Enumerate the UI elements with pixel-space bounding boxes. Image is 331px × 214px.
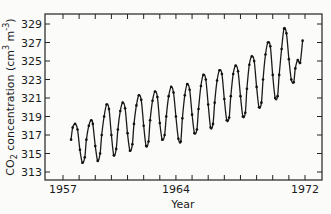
data-point: [191, 113, 194, 116]
data-point: [260, 101, 263, 104]
data-point: [88, 124, 91, 127]
x-tick-label: 1957: [49, 183, 77, 196]
data-point: [83, 156, 86, 159]
data-point: [76, 128, 79, 131]
data-point: [239, 95, 242, 98]
data-point: [218, 69, 221, 72]
data-point: [225, 119, 228, 122]
y-tick-label: 313: [21, 166, 42, 179]
data-point: [147, 140, 150, 143]
data-point: [151, 99, 154, 102]
y-tick-label: 317: [21, 129, 42, 142]
data-point: [135, 104, 138, 107]
data-point: [188, 88, 191, 91]
data-point: [96, 160, 99, 163]
y-tick-label: 321: [21, 92, 42, 105]
y-tick-label: 329: [21, 18, 42, 31]
data-point: [154, 90, 157, 93]
data-point: [232, 73, 235, 76]
data-point: [267, 41, 270, 44]
data-point: [184, 94, 187, 97]
y-axis-title: CO2 concentration (cm3 m-3): [2, 18, 19, 175]
data-point: [212, 123, 215, 126]
data-point: [269, 45, 272, 48]
data-point: [262, 78, 265, 81]
data-point: [253, 60, 256, 63]
data-point: [290, 78, 293, 81]
data-point: [193, 132, 196, 135]
data-point: [285, 32, 288, 35]
data-point: [175, 115, 178, 118]
data-point: [170, 86, 173, 89]
data-point: [149, 119, 152, 122]
data-point: [186, 83, 189, 86]
data-point: [115, 148, 118, 151]
data-point: [138, 94, 141, 97]
data-point: [288, 58, 291, 61]
x-axis-title: Year: [170, 198, 195, 211]
data-point: [258, 106, 261, 109]
data-point: [81, 161, 84, 164]
data-point: [234, 64, 237, 67]
data-point: [119, 110, 122, 113]
co2-series: [70, 27, 304, 164]
co2-curve: [71, 28, 303, 164]
data-point: [202, 74, 205, 77]
data-point: [140, 99, 143, 102]
data-point: [99, 152, 102, 155]
data-point: [126, 132, 129, 135]
data-point: [244, 112, 247, 115]
data-point: [299, 62, 302, 65]
data-point: [133, 123, 136, 126]
data-point: [79, 149, 82, 152]
y-tick-label: 319: [21, 111, 42, 124]
data-point: [181, 117, 184, 120]
data-point: [121, 101, 124, 104]
data-point: [167, 95, 170, 98]
data-point: [200, 85, 203, 88]
data-point: [250, 55, 253, 58]
x-tick-label: 1964: [162, 183, 190, 196]
data-point: [108, 108, 111, 111]
data-point: [100, 134, 103, 137]
data-point: [105, 103, 108, 106]
data-point: [276, 95, 279, 98]
data-point: [237, 70, 240, 73]
data-point: [280, 48, 283, 51]
data-point: [242, 115, 245, 118]
data-point: [172, 91, 175, 94]
data-point: [90, 119, 93, 122]
data-point: [223, 98, 226, 101]
data-point: [110, 134, 113, 137]
data-point: [131, 143, 134, 146]
data-point: [228, 116, 231, 119]
data-point: [248, 63, 251, 66]
y-tick-label: 327: [21, 37, 42, 50]
data-point: [209, 126, 212, 129]
data-point: [294, 67, 297, 70]
co2-concentration-chart: 313315317319321323325327329 195719641972…: [0, 0, 331, 214]
data-point: [159, 122, 162, 125]
data-point: [124, 107, 127, 110]
data-point: [283, 27, 286, 30]
data-point: [216, 79, 219, 82]
y-tick-label: 323: [21, 74, 42, 87]
data-point: [71, 126, 74, 129]
data-point: [145, 145, 148, 148]
data-point: [196, 128, 199, 131]
data-point: [92, 123, 95, 126]
data-point: [204, 78, 207, 81]
data-point: [255, 86, 258, 89]
data-point: [264, 53, 267, 56]
data-point: [85, 138, 88, 141]
data-point: [177, 137, 180, 140]
svg-text:CO2 concentration (cm3 m-3): CO2 concentration (cm3 m-3): [2, 18, 19, 175]
data-point: [274, 97, 277, 100]
data-point: [296, 59, 299, 62]
data-point: [179, 140, 182, 143]
data-point: [161, 138, 164, 141]
data-point: [221, 73, 224, 76]
data-point: [113, 154, 116, 157]
data-point: [117, 128, 120, 131]
data-point: [156, 96, 159, 99]
